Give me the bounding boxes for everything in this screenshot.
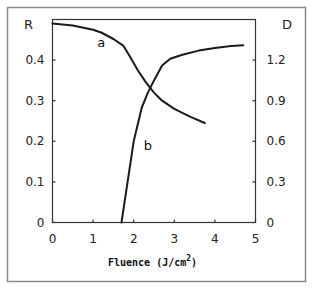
x-tick-label: 3 bbox=[170, 232, 178, 246]
y-left-tick-label: 0.1 bbox=[25, 175, 44, 189]
y-left-tick-label: 0.4 bbox=[25, 53, 44, 67]
y-right-tick-label: 0 bbox=[267, 216, 275, 230]
series-lines bbox=[53, 24, 244, 223]
y-left-tick-label: 0 bbox=[37, 216, 45, 230]
x-axis-ticks: 012345 bbox=[49, 220, 260, 246]
y-axis-left-title: R bbox=[24, 17, 33, 32]
series-line-a bbox=[53, 24, 205, 123]
y-right-tick-label: 0.9 bbox=[267, 94, 286, 108]
y-axis-right-ticks: 00.30.60.91.2 bbox=[253, 53, 286, 229]
plot-box bbox=[53, 20, 256, 223]
x-tick-label: 1 bbox=[89, 232, 97, 246]
x-axis-title: Fluence (J/cm2) bbox=[108, 254, 197, 268]
y-axis-left-ticks: 00.10.20.30.4 bbox=[25, 53, 55, 229]
y-left-tick-label: 0.2 bbox=[25, 134, 44, 148]
y-right-tick-label: 0.6 bbox=[267, 134, 286, 148]
y-left-tick-label: 0.3 bbox=[25, 94, 44, 108]
curve-label-a: a bbox=[97, 35, 105, 50]
chart-figure: 012345 00.10.20.30.4 00.30.60.91.2 R D F… bbox=[0, 0, 314, 290]
y-right-tick-label: 0.3 bbox=[267, 175, 286, 189]
curve-label-b: b bbox=[144, 138, 152, 153]
x-tick-label: 5 bbox=[252, 232, 260, 246]
x-tick-label: 4 bbox=[211, 232, 219, 246]
x-tick-label: 2 bbox=[130, 232, 138, 246]
y-right-tick-label: 1.2 bbox=[267, 53, 286, 67]
x-tick-label: 0 bbox=[49, 232, 57, 246]
plot-area bbox=[53, 20, 256, 223]
y-axis-right-title: D bbox=[282, 17, 292, 32]
